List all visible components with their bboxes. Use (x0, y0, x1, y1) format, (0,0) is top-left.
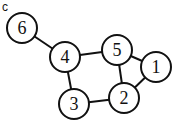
node-label: 2 (120, 88, 129, 108)
node-5: 5 (102, 35, 132, 65)
graph-diagram: 645123 (0, 0, 176, 124)
node-3: 3 (59, 89, 89, 119)
node-label: 4 (61, 47, 70, 67)
node-label: 6 (18, 18, 27, 38)
node-2: 2 (109, 83, 139, 113)
node-6: 6 (7, 13, 37, 43)
node-4: 4 (50, 42, 80, 72)
node-label: 5 (113, 40, 122, 60)
node-label: 3 (70, 94, 79, 114)
node-label: 1 (152, 57, 161, 77)
graph-nodes: 645123 (7, 13, 171, 119)
node-1: 1 (141, 52, 171, 82)
